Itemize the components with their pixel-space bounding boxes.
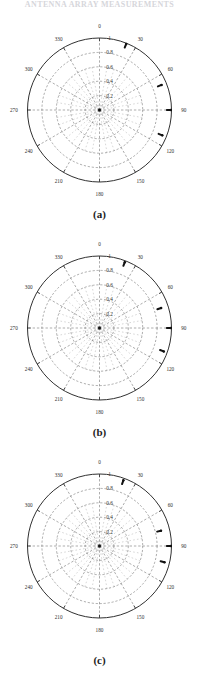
polar-outer-tick xyxy=(159,362,162,364)
polar-data-point xyxy=(157,307,162,310)
polar-data-point xyxy=(167,327,172,330)
angular-tick-label: 240 xyxy=(25,584,33,590)
polar-minor-spoke xyxy=(84,504,99,546)
polar-minor-spoke xyxy=(100,284,108,328)
radial-tick-label: 0.6 xyxy=(106,64,113,70)
radial-tick-label: 0.6 xyxy=(106,500,113,506)
polar-plot-b-svg: 03060901201501802102402703003300.20.40.6… xyxy=(0,240,199,416)
polar-outer-tick xyxy=(64,48,66,51)
radial-tick-label: 0.2 xyxy=(106,529,113,535)
polar-minor-spoke xyxy=(100,110,142,125)
polar-outer-tick xyxy=(64,388,66,391)
angular-tick-label: 240 xyxy=(25,366,33,372)
polar-origin-marker xyxy=(98,109,101,112)
angular-tick-label: 120 xyxy=(166,148,174,154)
polar-minor-spoke xyxy=(100,502,108,546)
angular-tick-label: 180 xyxy=(96,191,104,197)
angular-tick-label: 150 xyxy=(136,396,144,402)
polar-outer-tick xyxy=(64,170,66,173)
figure-b-caption: (b) xyxy=(0,426,199,438)
polar-minor-spoke xyxy=(100,102,144,110)
angular-tick-label: 210 xyxy=(55,614,63,620)
polar-minor-spoke xyxy=(100,328,144,336)
polar-outer-tick xyxy=(37,580,40,582)
angular-tick-label: 300 xyxy=(25,502,33,508)
polar-minor-spoke xyxy=(84,286,99,328)
polar-data-point xyxy=(167,545,172,548)
polar-outer-tick xyxy=(134,606,136,609)
angular-tick-label: 120 xyxy=(166,366,174,372)
polar-outer-tick xyxy=(159,74,162,76)
angular-tick-label: 300 xyxy=(25,66,33,72)
polar-outer-tick xyxy=(134,48,136,51)
polar-minor-spoke xyxy=(100,546,115,588)
polar-data-point xyxy=(160,350,165,353)
angular-tick-label: 330 xyxy=(55,472,63,478)
angular-tick-label: 180 xyxy=(96,409,104,415)
figure-c: 03060901201501802102402703003300.20.40.6… xyxy=(0,458,199,670)
figure-a-caption: (a) xyxy=(0,208,199,220)
polar-minor-spoke xyxy=(56,320,100,328)
polar-minor-spoke xyxy=(100,110,108,154)
angular-tick-label: 60 xyxy=(168,502,174,508)
polar-minor-spoke xyxy=(100,328,115,370)
radial-tick-label: 0.2 xyxy=(106,311,113,317)
polar-outer-tick xyxy=(37,510,40,512)
polar-data-point xyxy=(158,84,163,87)
polar-data-point xyxy=(161,561,166,564)
polar-outer-tick xyxy=(37,292,40,294)
polar-data-point xyxy=(125,43,128,48)
polar-plot-b-wrap: 03060901201501802102402703003300.20.40.6… xyxy=(0,240,199,416)
polar-minor-spoke xyxy=(84,110,99,152)
radial-tick-label: 0.4 xyxy=(106,514,113,520)
polar-outer-tick xyxy=(159,510,162,512)
angular-tick-label: 0 xyxy=(98,459,101,465)
angular-tick-label: 150 xyxy=(136,178,144,184)
radial-tick-label: 1 xyxy=(108,35,111,41)
polar-plot-a-wrap: 03060901201501802102402703003300.20.40.6… xyxy=(0,22,199,198)
polar-minor-spoke xyxy=(100,328,142,343)
radial-tick-labels: 0.20.40.60.81 xyxy=(106,35,113,99)
radial-tick-label: 1 xyxy=(108,471,111,477)
polar-minor-spoke xyxy=(56,538,100,546)
polar-minor-spoke xyxy=(56,110,100,118)
figure-b: 03060901201501802102402703003300.20.40.6… xyxy=(0,240,199,440)
radial-tick-label: 0.6 xyxy=(106,282,113,288)
angular-tick-label: 150 xyxy=(136,614,144,620)
polar-minor-spoke xyxy=(100,546,108,590)
page-running-header: ANTENNA ARRAY MEASUREMENTS xyxy=(0,0,199,7)
polar-minor-spoke xyxy=(92,66,100,110)
polar-plot-a-svg: 03060901201501802102402703003300.20.40.6… xyxy=(0,22,199,198)
polar-data-point xyxy=(159,134,164,137)
polar-minor-spoke xyxy=(92,110,100,154)
polar-minor-spoke xyxy=(84,68,99,110)
polar-minor-spoke xyxy=(100,110,144,118)
angular-tick-label: 270 xyxy=(10,325,18,331)
polar-data-point xyxy=(123,261,126,266)
polar-outer-tick xyxy=(159,144,162,146)
angular-tick-label: 90 xyxy=(181,107,187,113)
polar-minor-spoke xyxy=(92,502,100,546)
angular-tick-label: 90 xyxy=(181,325,187,331)
angular-tick-label: 240 xyxy=(25,148,33,154)
radial-tick-label: 0.2 xyxy=(106,93,113,99)
polar-minor-spoke xyxy=(56,102,100,110)
radial-tick-label: 0.8 xyxy=(106,267,113,273)
polar-outer-tick xyxy=(37,144,40,146)
angular-tick-label: 30 xyxy=(138,36,144,42)
angular-tick-label: 90 xyxy=(181,543,187,549)
angular-tick-label: 60 xyxy=(168,284,174,290)
figure-a: 03060901201501802102402703003300.20.40.6… xyxy=(0,22,199,222)
polar-minor-spoke xyxy=(100,504,115,546)
polar-minor-spoke xyxy=(56,546,100,554)
radial-tick-label: 0.8 xyxy=(106,485,113,491)
angular-tick-label: 270 xyxy=(10,107,18,113)
radial-tick-label: 0.4 xyxy=(106,296,113,302)
polar-data-point xyxy=(122,479,125,484)
radial-tick-label: 0.4 xyxy=(106,78,113,84)
angular-tick-label: 330 xyxy=(55,36,63,42)
angular-tick-label: 0 xyxy=(98,241,101,247)
polar-minor-spoke xyxy=(100,546,144,554)
angular-tick-label: 30 xyxy=(138,472,144,478)
radial-tick-label: 0.8 xyxy=(106,49,113,55)
